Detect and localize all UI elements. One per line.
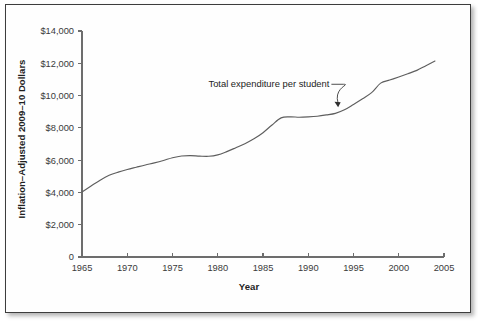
annotation-leader-line: [331, 84, 345, 103]
x-tick-label: 2000: [388, 263, 409, 273]
y-axis-title: Inflation–Adjusted 2009–10 Dollars: [16, 60, 27, 219]
y-tick-label: $12,000: [40, 59, 74, 69]
x-tick-label: 1965: [72, 263, 93, 273]
figure-root: 0$2,000$4,000$6,000$8,000$10,000$12,000$…: [0, 0, 478, 325]
y-tick-label: $6,000: [46, 156, 74, 166]
y-tick-label: 0: [69, 252, 74, 262]
line-chart: 0$2,000$4,000$6,000$8,000$10,000$12,000$…: [0, 0, 478, 325]
x-tick-label: 1970: [117, 263, 138, 273]
y-tick-label: $2,000: [46, 220, 74, 230]
y-axis-tick-labels: 0$2,000$4,000$6,000$8,000$10,000$12,000$…: [40, 26, 74, 262]
x-tick-label: 1975: [162, 263, 183, 273]
annotation-arrow-icon: [335, 102, 341, 107]
x-axis-tick-labels: 196519701975198019851990199520002005: [72, 263, 455, 273]
x-tick-label: 1985: [253, 263, 274, 273]
x-axis-title: Year: [239, 281, 260, 292]
y-tick-label: $4,000: [46, 188, 74, 198]
y-tick-label: $8,000: [46, 123, 74, 133]
x-tick-label: 1995: [343, 263, 364, 273]
annotation-label: Total expenditure per student: [208, 78, 329, 89]
x-axis-ticks: [82, 253, 444, 257]
y-tick-label: $10,000: [40, 91, 74, 101]
x-tick-label: 1980: [207, 263, 228, 273]
y-tick-label: $14,000: [40, 26, 74, 36]
x-tick-label: 2005: [434, 263, 455, 273]
x-tick-label: 1990: [298, 263, 319, 273]
y-axis-ticks: [78, 31, 82, 257]
